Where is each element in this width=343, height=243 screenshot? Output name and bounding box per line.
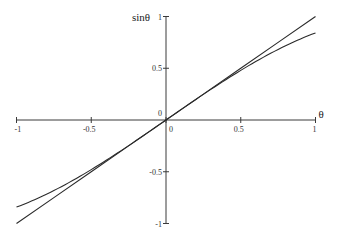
x-tick-label: -0.5: [83, 125, 96, 134]
x-tick-label: 0: [169, 125, 173, 134]
x-tick-label: -1: [15, 125, 22, 134]
x-tick-label: 0.5: [234, 125, 244, 134]
y-tick-label: 0: [158, 109, 162, 118]
y-tick-label: 0.5: [152, 64, 162, 73]
x-axis: -1-0.500.51 θ: [15, 108, 324, 134]
chart: -1-0.500.51 θ 10.50-0.5-1 sinθ: [0, 0, 343, 243]
x-axis-label: θ: [319, 108, 324, 120]
y-tick-label: 1: [158, 13, 162, 22]
y-tick-label: -1: [155, 220, 162, 229]
y-axis-label: sinθ: [132, 11, 150, 23]
y-tick-label: -0.5: [149, 168, 162, 177]
x-tick-label: 1: [313, 125, 317, 134]
